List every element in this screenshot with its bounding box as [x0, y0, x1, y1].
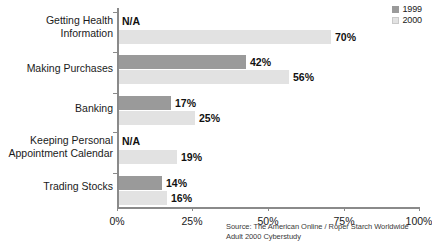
source-note: Source: The American Online / Roper Star…	[226, 222, 409, 242]
bar-row-1999: 14%	[119, 176, 187, 190]
bar-value-2000: 56%	[293, 70, 314, 84]
category-label-making-purchases: Making Purchases	[0, 62, 113, 75]
source-note-line-1: Source: The American Online / Roper Star…	[226, 222, 409, 232]
bar-value-1999: 17%	[175, 96, 196, 110]
bar-value-2000: 25%	[199, 111, 220, 125]
x-axis-label-0: 0%	[109, 215, 124, 227]
category-tick	[113, 93, 117, 94]
bar-2000	[119, 150, 177, 164]
bar-value-2000: 19%	[181, 150, 202, 164]
category-label-line: Trading Stocks	[0, 180, 113, 193]
x-axis-tick-0	[117, 207, 118, 211]
category-label-line: Getting Health	[0, 14, 113, 27]
bar-na-label-1999: N/A	[122, 135, 140, 148]
bar-row-2000: 16%	[119, 191, 192, 205]
bar-2000	[119, 30, 331, 44]
source-note-line-2: Adult 2000 Cyberstudy	[226, 232, 409, 242]
bar-value-1999: 14%	[166, 176, 187, 190]
bar-group-making-purchases: 42% 56%	[117, 52, 420, 88]
bar-1999	[119, 96, 171, 110]
bar-group-keeping-personal-appointment-calendar: N/A 19%	[117, 132, 420, 170]
category-label-line: Information	[0, 27, 113, 40]
category-tick	[113, 173, 117, 174]
bar-na-label-1999: N/A	[122, 15, 140, 28]
category-label-trading-stocks: Trading Stocks	[0, 180, 113, 193]
category-tick	[113, 12, 117, 13]
bar-group-getting-health-information: N/A 70%	[117, 12, 420, 50]
x-axis-label-100: 100%	[406, 215, 432, 227]
x-axis-label-25: 25%	[181, 215, 202, 227]
bar-2000	[119, 191, 167, 205]
x-axis-tick-75	[344, 207, 345, 211]
category-tick	[113, 52, 117, 53]
plot-area: N/A 70% 42% 56% 17%	[117, 8, 420, 207]
bar-row-2000: 19%	[119, 150, 202, 164]
bar-value-2000: 16%	[171, 191, 192, 205]
bar-1999	[119, 176, 162, 190]
category-label-keeping-personal-appointment-calendar: Keeping Personal Appointment Calendar	[0, 134, 113, 159]
x-axis-tick-25	[192, 207, 193, 211]
bar-row-2000: 70%	[119, 30, 356, 44]
bar-row-2000: 25%	[119, 111, 220, 125]
bar-row-1999: 17%	[119, 96, 196, 110]
category-label-line: Making Purchases	[0, 62, 113, 75]
category-label-line: Keeping Personal	[0, 134, 113, 147]
bar-group-banking: 17% 25%	[117, 93, 420, 129]
bar-row-2000: 56%	[119, 70, 314, 84]
category-label-banking: Banking	[0, 102, 113, 115]
bar-value-2000: 70%	[335, 30, 356, 44]
bar-2000	[119, 70, 289, 84]
bar-1999	[119, 55, 246, 69]
bar-group-trading-stocks: 14% 16%	[117, 173, 420, 209]
category-tick	[113, 132, 117, 133]
category-label-line: Appointment Calendar	[0, 147, 113, 160]
bar-row-1999: 42%	[119, 55, 271, 69]
bar-2000	[119, 111, 195, 125]
category-label-line: Banking	[0, 102, 113, 115]
category-label-getting-health-information: Getting Health Information	[0, 14, 113, 39]
bar-value-1999: 42%	[250, 55, 271, 69]
x-axis-tick-100	[419, 207, 420, 211]
x-axis-tick-50	[268, 207, 269, 211]
